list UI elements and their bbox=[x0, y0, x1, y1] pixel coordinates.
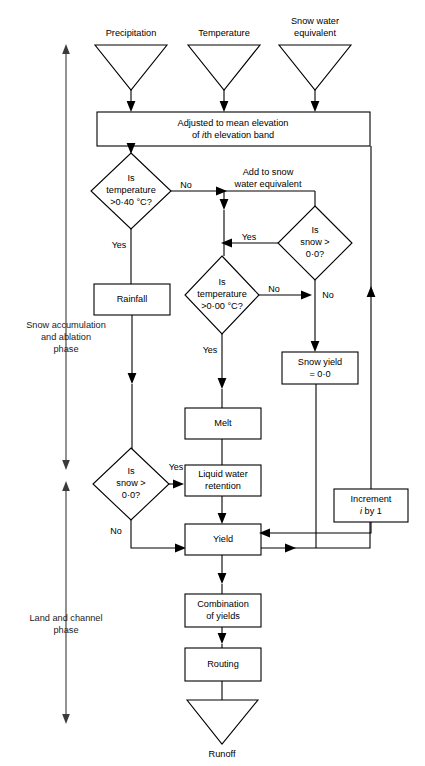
phase-land-line1: Land and channel bbox=[29, 613, 102, 623]
temp000-line1: Is bbox=[218, 277, 226, 287]
temp000-line2: temperature bbox=[197, 289, 247, 299]
combination-line1: Combination bbox=[197, 599, 249, 609]
snowtop-line2: snow > bbox=[300, 237, 329, 247]
process-increment: Increment i by 1 bbox=[334, 489, 408, 522]
connector-yield-to-combination bbox=[218, 555, 227, 594]
adjusted-line1: Adjusted to mean elevation bbox=[178, 118, 289, 128]
process-routing: Routing bbox=[185, 648, 261, 681]
connector-rainfall-down bbox=[128, 315, 137, 449]
connector-increment-return-trunk bbox=[367, 146, 376, 489]
snowtop-line3: 0·0? bbox=[306, 249, 324, 259]
phase-land-line2: phase bbox=[53, 625, 78, 635]
process-yield: Yield bbox=[185, 524, 261, 555]
add-swe-line2: water equivalent bbox=[234, 179, 302, 189]
lwr-line2: retention bbox=[205, 481, 241, 491]
input-temperature-label: Temperature bbox=[198, 28, 250, 38]
branch-snowtop-no: No bbox=[322, 290, 334, 300]
branch-temp040-no: No bbox=[180, 180, 192, 190]
yield-label: Yield bbox=[213, 534, 233, 544]
rainfall-label: Rainfall bbox=[117, 294, 148, 304]
connector-addswe-down bbox=[220, 191, 229, 210]
label-add-to-swe: Add to snow water equivalent bbox=[234, 167, 302, 189]
connector-temp000-yes-down bbox=[218, 334, 227, 408]
process-rainfall: Rainfall bbox=[94, 284, 170, 315]
temp000-line3: >0·00 °C? bbox=[201, 301, 243, 311]
phase-snow-line3: phase bbox=[53, 344, 78, 354]
lwr-line1: Liquid water bbox=[198, 469, 248, 479]
snow-yield-line1: Snow yield bbox=[298, 357, 342, 367]
process-combination-of-yields: Combination of yields bbox=[185, 594, 261, 627]
flowchart-figure: Snow accumulation and ablation phase Lan… bbox=[0, 0, 425, 766]
snowbottom-line3: 0·0? bbox=[122, 490, 140, 500]
increment-line2: i by 1 bbox=[360, 506, 382, 516]
input-snow-water-equivalent: Snow water equivalent bbox=[279, 16, 351, 90]
branch-snowbottom-yes: Yes bbox=[169, 462, 184, 472]
decision-temperature-040: Is temperature >0·40 °C? bbox=[91, 153, 171, 229]
process-snow-yield: Snow yield = 0·0 bbox=[282, 352, 358, 384]
process-melt: Melt bbox=[185, 408, 261, 439]
temp040-line2: temperature bbox=[106, 185, 156, 195]
connector-combination-to-routing bbox=[218, 627, 227, 648]
phase-label-snow: Snow accumulation and ablation phase bbox=[26, 320, 106, 354]
snowbottom-line1: Is bbox=[127, 466, 135, 476]
phase-snow-line2: and ablation bbox=[41, 332, 91, 342]
connector-snowbottom-no bbox=[131, 520, 186, 552]
routing-label: Routing bbox=[207, 659, 239, 669]
branch-temp040-yes: Yes bbox=[112, 240, 127, 250]
temp040-line1: Is bbox=[127, 173, 135, 183]
connector-snowbottom-yes bbox=[169, 480, 184, 489]
output-runoff: Runoff bbox=[187, 700, 258, 759]
connector-precip-to-adjusted bbox=[127, 90, 136, 112]
connector-temp000-no bbox=[259, 291, 312, 300]
connector-lwr-to-yield bbox=[218, 496, 227, 524]
adjusted-line2: of ith elevation band bbox=[192, 130, 274, 140]
snowtop-line1: Is bbox=[311, 225, 319, 235]
connector-snowtop-no bbox=[311, 280, 320, 352]
flowchart-canvas: Snow accumulation and ablation phase Lan… bbox=[0, 0, 425, 766]
process-liquid-water-retention: Liquid water retention bbox=[185, 465, 261, 496]
decision-temperature-000: Is temperature >0·00 °C? bbox=[185, 256, 259, 334]
runoff-label: Runoff bbox=[209, 749, 236, 759]
add-swe-line1: Add to snow bbox=[243, 167, 294, 177]
connector-swe-to-adjusted bbox=[311, 90, 320, 112]
connector-temp-to-adjusted bbox=[220, 90, 229, 112]
input-swe-label-line2: equivalent bbox=[294, 28, 336, 38]
branch-temp000-yes: Yes bbox=[203, 345, 218, 355]
snowbottom-line2: snow > bbox=[116, 478, 145, 488]
temp040-line3: >0·40 °C? bbox=[110, 197, 152, 207]
increment-line1: Increment bbox=[351, 494, 392, 504]
phase-axis-snow bbox=[62, 44, 70, 470]
branch-snowbottom-no: No bbox=[110, 526, 122, 536]
process-adjusted-elevation: Adjusted to mean elevation of ith elevat… bbox=[97, 112, 370, 146]
snow-yield-line2: = 0·0 bbox=[309, 369, 330, 379]
input-swe-label-line1: Snow water bbox=[291, 16, 339, 26]
input-precipitation: Precipitation bbox=[95, 28, 167, 90]
phase-axis-land bbox=[62, 481, 70, 724]
decision-snow-top: Is snow > 0·0? bbox=[278, 206, 352, 280]
branch-snowtop-yes: Yes bbox=[242, 232, 257, 242]
branch-temp000-no: No bbox=[268, 284, 280, 294]
combination-line2: of yields bbox=[206, 611, 240, 621]
decision-snow-bottom: Is snow > 0·0? bbox=[93, 448, 169, 520]
melt-label: Melt bbox=[214, 418, 232, 428]
phase-snow-line1: Snow accumulation bbox=[26, 320, 106, 330]
input-temperature: Temperature bbox=[188, 28, 260, 90]
input-precipitation-label: Precipitation bbox=[106, 28, 157, 38]
